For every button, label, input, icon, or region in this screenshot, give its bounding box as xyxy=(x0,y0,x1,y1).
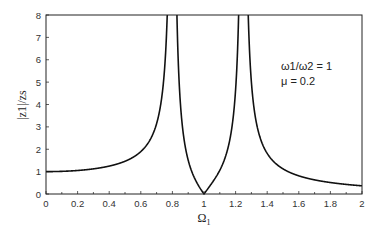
x-tick-label: 1.8 xyxy=(324,198,337,209)
y-tick-label: 3 xyxy=(36,121,41,132)
x-tick-label: 1.2 xyxy=(229,198,242,209)
x-tick-label: 0.2 xyxy=(71,198,84,209)
x-tick-label: 0.4 xyxy=(103,198,116,209)
x-tick-label: 1 xyxy=(201,198,206,209)
x-tick-label: 0.8 xyxy=(166,198,179,209)
axis-ticks xyxy=(46,15,362,194)
tick-labels: 00.20.40.60.811.21.41.61.82012345678 xyxy=(36,10,365,210)
y-tick-label: 7 xyxy=(36,32,41,43)
y-tick-label: 0 xyxy=(36,189,41,200)
y-tick-label: 8 xyxy=(36,10,41,21)
annotation-omega-ratio: ω1/ω2 = 1 xyxy=(281,60,332,72)
y-tick-label: 6 xyxy=(36,54,41,65)
y-tick-label: 4 xyxy=(36,99,41,110)
y-tick-label: 1 xyxy=(36,166,41,177)
x-tick-label: 2 xyxy=(359,198,364,209)
annotation-mu: μ = 0.2 xyxy=(281,75,315,87)
y-axis-label: |z1|/zs xyxy=(15,90,29,120)
x-tick-label: 0.6 xyxy=(134,198,147,209)
y-tick-label: 5 xyxy=(36,77,41,88)
y-tick-label: 2 xyxy=(36,144,41,155)
x-tick-label: 1.4 xyxy=(261,198,274,209)
x-tick-label: 0 xyxy=(43,198,48,209)
x-tick-label: 1.6 xyxy=(292,198,305,209)
response-curve xyxy=(46,15,362,194)
response-chart: 00.20.40.60.811.21.41.61.82012345678 Ω1 … xyxy=(0,0,384,232)
x-axis-label: Ω1 xyxy=(198,211,211,227)
plot-frame xyxy=(46,15,362,194)
